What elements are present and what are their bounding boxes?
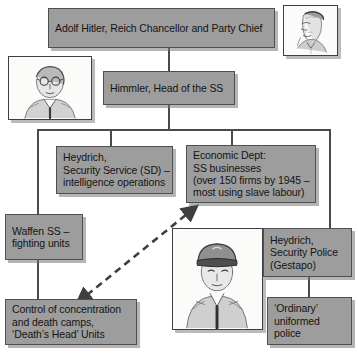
connector-himmler-down bbox=[168, 104, 170, 130]
org-chart-canvas: Adolf Hitler, Reich Chancellor and Party… bbox=[0, 0, 358, 359]
node-heydrich-sd-line1: Heydrich, bbox=[63, 151, 167, 163]
node-ordinary-police[interactable]: ‘Ordinary’ uniformed police bbox=[267, 297, 352, 345]
node-economic-dept-line2: SS businesses bbox=[193, 162, 310, 174]
node-hitler[interactable]: Adolf Hitler, Reich Chancellor and Party… bbox=[48, 8, 275, 48]
node-economic-dept[interactable]: Economic Dept: SS businesses (over 150 f… bbox=[186, 145, 316, 203]
node-waffen-ss[interactable]: Waffen SS – fighting units bbox=[5, 214, 83, 260]
node-gestapo[interactable]: Heydrich, Security Police (Gestapo) bbox=[263, 228, 352, 277]
node-hitler-label: Adolf Hitler, Reich Chancellor and Party… bbox=[55, 22, 269, 34]
node-himmler-label: Himmler, Head of the SS bbox=[110, 82, 229, 94]
node-camps[interactable]: Control of concentration and death camps… bbox=[5, 299, 137, 345]
node-camps-line3: ‘Death’s Head’ Units bbox=[12, 328, 131, 340]
node-gestapo-line1: Heydrich, bbox=[270, 234, 346, 246]
connector-bus-to-economic-dept bbox=[231, 129, 233, 146]
connector-bus-to-heydrich-sd bbox=[110, 129, 112, 147]
connector-hitler-himmler bbox=[168, 48, 170, 72]
connector-waffen-to-camps bbox=[37, 260, 39, 299]
node-ordinary-police-line2: uniformed bbox=[274, 315, 346, 327]
node-economic-dept-line1: Economic Dept: bbox=[193, 149, 310, 161]
node-waffen-ss-line1: Waffen SS – bbox=[12, 225, 77, 237]
node-gestapo-line2: Security Police bbox=[270, 246, 346, 258]
node-heydrich-sd-line2: Security Service (SD) – bbox=[63, 164, 167, 176]
node-heydrich-sd[interactable]: Heydrich, Security Service (SD) – intell… bbox=[56, 146, 173, 194]
ss-officer-portrait bbox=[172, 228, 263, 330]
node-economic-dept-line3: (over 150 firms by 1945 – bbox=[193, 174, 310, 186]
node-camps-line1: Control of concentration bbox=[12, 303, 131, 315]
node-waffen-ss-line2: fighting units bbox=[12, 237, 77, 249]
node-ordinary-police-line3: police bbox=[274, 327, 346, 339]
connector-bus-to-gestapo bbox=[329, 129, 331, 228]
node-economic-dept-line4: most using slave labour) bbox=[193, 186, 310, 198]
connector-gestapo-to-police bbox=[308, 277, 310, 297]
node-ordinary-police-line1: ‘Ordinary’ bbox=[274, 302, 346, 314]
connector-bus-to-waffen bbox=[37, 129, 39, 214]
node-camps-line2: and death camps, bbox=[12, 316, 131, 328]
hitler-portrait bbox=[283, 5, 338, 56]
node-heydrich-sd-line3: intelligence operations bbox=[63, 176, 167, 188]
himmler-portrait bbox=[8, 56, 92, 120]
node-gestapo-line3: (Gestapo) bbox=[270, 259, 346, 271]
connector-horizontal-bus bbox=[37, 129, 331, 131]
node-himmler[interactable]: Himmler, Head of the SS bbox=[103, 71, 235, 105]
